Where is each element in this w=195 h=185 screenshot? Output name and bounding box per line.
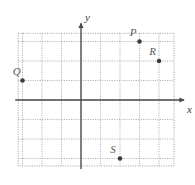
data-point-s: [118, 156, 123, 161]
point-label-s: S: [110, 144, 116, 155]
data-point-p: [137, 39, 142, 44]
data-point-r: [157, 59, 162, 64]
data-point-q: [20, 78, 25, 83]
scatter-plot-svg: [0, 0, 195, 185]
point-label-r: R: [149, 46, 156, 57]
y-axis-label: y: [85, 12, 90, 23]
coordinate-plane-figure: PRQSxy: [0, 0, 195, 185]
x-axis-label: x: [187, 104, 192, 115]
point-label-p: P: [130, 27, 137, 38]
point-label-q: Q: [13, 66, 21, 77]
